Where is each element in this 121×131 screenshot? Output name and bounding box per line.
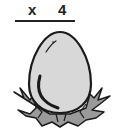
egg-nest-illustration xyxy=(0,0,121,131)
egg-icon xyxy=(29,32,91,113)
